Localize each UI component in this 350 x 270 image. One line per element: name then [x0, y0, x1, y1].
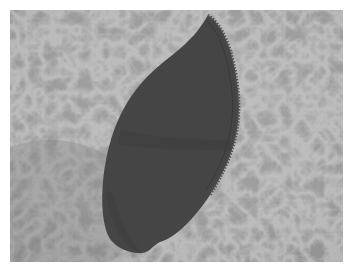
photo-canvas — [10, 10, 343, 262]
photo-grain — [10, 10, 343, 262]
photo — [10, 10, 343, 262]
